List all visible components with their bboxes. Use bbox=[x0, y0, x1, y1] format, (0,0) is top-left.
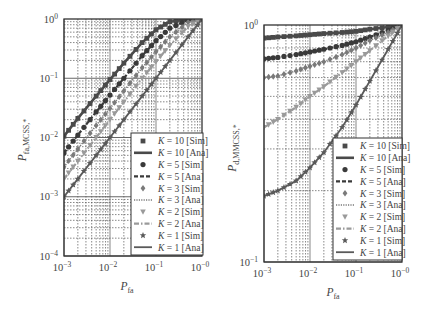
x-tick-label: 10−1 bbox=[345, 266, 364, 279]
legend-entry: K = 3 [Sim] bbox=[157, 184, 203, 194]
x-tick-label: 10−3 bbox=[253, 266, 272, 279]
legend-entry: K = 3 [Ana] bbox=[359, 200, 406, 210]
legend-entry: K = 10 [Sim] bbox=[157, 136, 208, 146]
right-chart-panel: 10010−1 10−310−210−110−0 Pd,MMCSS,* Pfa … bbox=[226, 18, 410, 302]
legend-entry: K = 10 [Ana] bbox=[157, 148, 208, 158]
legend-entry: K = 2 [Sim] bbox=[157, 207, 203, 217]
left-x-tick-labels: 10−310−210−110−0 bbox=[53, 260, 210, 273]
legend-entry: K = 3 [Sim] bbox=[359, 189, 405, 199]
legend-entry: K = 10 [Sim] bbox=[359, 141, 410, 151]
legend-entry: K = 1 [Sim] bbox=[157, 231, 203, 241]
legend-entry: K = 5 [Ana] bbox=[359, 177, 406, 187]
y-tick-label: 10−4 bbox=[40, 249, 59, 262]
right-x-tick-labels: 10−310−210−110−0 bbox=[253, 266, 410, 279]
legend-entry: K = 2 [Sim] bbox=[359, 212, 405, 222]
y-tick-label: 10−1 bbox=[40, 71, 59, 84]
legend-entry: K = 2 [Ana] bbox=[359, 224, 406, 234]
x-tick-label: 10−1 bbox=[145, 260, 164, 273]
right-x-axis-label: Pfa bbox=[325, 286, 340, 301]
left-y-tick-labels: 10010−110−210−310−4 bbox=[40, 12, 59, 262]
x-tick-label: 10−0 bbox=[391, 266, 410, 279]
y-tick-label: 10−1 bbox=[240, 255, 259, 268]
y-tick-label: 100 bbox=[244, 18, 259, 31]
left-legend: K = 10 [Sim]K = 10 [Ana]K = 5 [Sim]K = 5… bbox=[131, 133, 208, 255]
legend-entry: K = 3 [Ana] bbox=[157, 195, 204, 205]
left-y-axis-label: Pfa,MCSS,* bbox=[16, 119, 31, 163]
legend-entry: K = 1 [Sim] bbox=[359, 236, 405, 246]
x-tick-label: 10−3 bbox=[53, 260, 72, 273]
legend-entry: K = 10 [Ana] bbox=[359, 153, 410, 163]
legend-entry: K = 1 [Ana] bbox=[359, 248, 406, 258]
legend-entry: K = 5 [Ana] bbox=[157, 172, 204, 182]
legend-entry: K = 5 [Sim] bbox=[359, 165, 405, 175]
x-tick-label: 10−2 bbox=[299, 266, 318, 279]
figure: 10010−110−210−310−4 10−310−210−110−0 Pfa… bbox=[0, 0, 427, 312]
left-x-axis-label: Pfa bbox=[119, 280, 134, 295]
left-chart-panel: 10010−110−210−310−4 10−310−210−110−0 Pfa… bbox=[16, 12, 209, 296]
y-tick-label: 10−3 bbox=[40, 189, 59, 202]
legend-entry: K = 5 [Sim] bbox=[157, 160, 203, 170]
x-tick-label: 10−0 bbox=[191, 260, 210, 273]
y-tick-label: 100 bbox=[44, 12, 59, 25]
right-legend: K = 10 [Sim]K = 10 [Ana]K = 5 [Sim]K = 5… bbox=[333, 138, 410, 260]
legend-entry: K = 2 [Ana] bbox=[157, 219, 204, 229]
right-y-tick-labels: 10010−1 bbox=[240, 18, 259, 268]
x-tick-label: 10−2 bbox=[99, 260, 118, 273]
legend-entry: K = 1 [Ana] bbox=[157, 243, 204, 253]
y-tick-label: 10−2 bbox=[40, 130, 59, 143]
right-y-axis-label: Pd,MMCSS,* bbox=[226, 124, 241, 173]
